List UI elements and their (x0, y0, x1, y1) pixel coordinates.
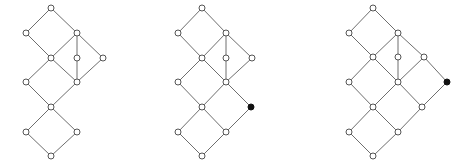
open-node-icon (199, 153, 205, 159)
lattice-edge (373, 33, 398, 57)
lattice-diagram-3 (346, 5, 450, 159)
filled-node-icon (248, 104, 254, 110)
filled-node-icon (444, 79, 450, 85)
lattice-edge (373, 82, 398, 107)
open-node-icon (100, 55, 106, 61)
open-node-icon (346, 30, 352, 36)
open-node-icon (370, 5, 376, 11)
lattice-edge (424, 57, 447, 82)
open-node-icon (223, 79, 229, 85)
open-node-icon (175, 79, 181, 85)
lattice-edge (51, 8, 77, 33)
open-node-icon (249, 55, 255, 61)
open-node-icon (74, 55, 80, 61)
lattice-edge (349, 82, 373, 107)
open-node-icon (370, 54, 376, 60)
lattice-edge (51, 58, 77, 82)
lattice-edge (202, 8, 226, 33)
open-node-icon (23, 30, 29, 36)
lattice-edge (26, 132, 51, 156)
lattice-edge (26, 33, 51, 58)
lattice-edge (373, 8, 398, 33)
lattice-edge (178, 132, 202, 156)
lattice-edge (26, 107, 51, 132)
open-node-icon (175, 129, 181, 135)
open-node-icon (74, 79, 80, 85)
lattice-edge (202, 107, 226, 132)
lattice-edge (398, 33, 424, 57)
open-node-icon (346, 129, 352, 135)
lattice-edge (51, 107, 77, 132)
lattice-edge (349, 8, 373, 33)
open-node-icon (199, 5, 205, 11)
lattice-edge (373, 132, 398, 156)
lattice-edge (373, 57, 398, 82)
open-node-icon (370, 104, 376, 110)
open-node-icon (395, 79, 401, 85)
lattice-edge (226, 82, 251, 107)
lattice-edge (178, 107, 202, 132)
lattice-edge (178, 8, 202, 33)
lattice-edge (202, 132, 226, 156)
lattice-diagrams-canvas (0, 0, 472, 168)
lattice-edge (398, 57, 424, 82)
lattice-edge (373, 107, 398, 132)
open-node-icon (419, 104, 425, 110)
lattice-edge (26, 82, 51, 107)
lattice-edge (422, 82, 447, 107)
lattice-edge (178, 33, 202, 58)
open-node-icon (74, 30, 80, 36)
open-node-icon (223, 30, 229, 36)
open-node-icon (23, 129, 29, 135)
open-node-icon (74, 129, 80, 135)
open-node-icon (48, 5, 54, 11)
lattice-edge (226, 58, 252, 82)
lattice-edge (202, 58, 226, 82)
lattice-diagram-1 (23, 5, 106, 159)
lattice-edge (349, 107, 373, 132)
open-node-icon (23, 79, 29, 85)
lattice-edge (349, 33, 373, 57)
lattice-edge (51, 132, 77, 156)
lattice-diagram-2 (175, 5, 255, 159)
lattice-edge (349, 57, 373, 82)
open-node-icon (346, 79, 352, 85)
lattice-edge (178, 82, 202, 107)
lattice-edge (26, 58, 51, 82)
lattice-edge (51, 82, 77, 107)
lattice-edge (398, 82, 422, 107)
lattice-edge (178, 58, 202, 82)
lattice-edge (398, 107, 422, 132)
open-node-icon (223, 129, 229, 135)
open-node-icon (395, 129, 401, 135)
open-node-icon (395, 30, 401, 36)
open-node-icon (175, 30, 181, 36)
open-node-icon (48, 55, 54, 61)
lattice-edge (349, 132, 373, 156)
lattice-edge (77, 58, 103, 82)
lattice-edge (26, 8, 51, 33)
open-node-icon (48, 153, 54, 159)
lattice-edge (202, 82, 226, 107)
open-node-icon (199, 104, 205, 110)
open-node-icon (223, 55, 229, 61)
open-node-icon (199, 55, 205, 61)
lattice-edge (226, 107, 251, 132)
open-node-icon (421, 54, 427, 60)
lattice-edge (202, 33, 226, 58)
open-node-icon (370, 153, 376, 159)
lattice-edge (51, 33, 77, 58)
lattice-edge (77, 33, 103, 58)
open-node-icon (395, 54, 401, 60)
lattice-edge (226, 33, 252, 58)
open-node-icon (48, 104, 54, 110)
